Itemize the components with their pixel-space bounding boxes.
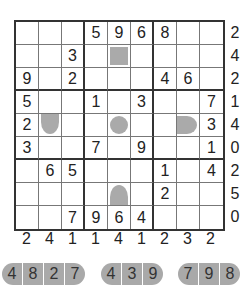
grid-cell[interactable]: 3 bbox=[16, 137, 39, 160]
grid-cell[interactable]: 1 bbox=[85, 91, 108, 114]
grid-cell[interactable] bbox=[108, 160, 131, 183]
grid-cell[interactable] bbox=[62, 22, 85, 45]
grid-cell[interactable] bbox=[39, 137, 62, 160]
cell-value: 3 bbox=[207, 117, 216, 133]
grid-cell[interactable] bbox=[177, 160, 200, 183]
grid-cell[interactable]: 7 bbox=[62, 206, 85, 229]
grid-cell[interactable] bbox=[131, 45, 154, 68]
grid-cell[interactable] bbox=[200, 22, 223, 45]
row-clue: 4 bbox=[227, 113, 243, 136]
grid-cell[interactable]: 4 bbox=[154, 68, 177, 91]
cell-value: 7 bbox=[92, 140, 101, 156]
grid-cell[interactable]: 1 bbox=[200, 137, 223, 160]
piece-tile: 9 bbox=[143, 263, 163, 285]
grid-cell[interactable]: 6 bbox=[177, 68, 200, 91]
grid-cell[interactable] bbox=[39, 206, 62, 229]
grid-cell[interactable] bbox=[131, 114, 154, 137]
grid-cell[interactable] bbox=[177, 137, 200, 160]
grid-cell[interactable] bbox=[16, 183, 39, 206]
grid-cell[interactable] bbox=[108, 114, 131, 137]
grid-cell[interactable] bbox=[177, 183, 200, 206]
grid-cell[interactable]: 1 bbox=[154, 160, 177, 183]
grid-cell[interactable]: 6 bbox=[108, 206, 131, 229]
grid-cell[interactable]: 5 bbox=[62, 160, 85, 183]
grid-cell[interactable] bbox=[62, 114, 85, 137]
grid-cell[interactable] bbox=[177, 114, 200, 137]
grid-cell[interactable] bbox=[39, 183, 62, 206]
grid-cell[interactable] bbox=[39, 68, 62, 91]
grid-cell[interactable] bbox=[16, 160, 39, 183]
grid-cell[interactable] bbox=[62, 91, 85, 114]
piece[interactable]: 439 bbox=[101, 263, 163, 285]
grid-cell[interactable] bbox=[108, 68, 131, 91]
piece-tray: 4827439798 bbox=[0, 263, 248, 287]
grid-cell[interactable] bbox=[154, 137, 177, 160]
grid-cell[interactable]: 5 bbox=[85, 22, 108, 45]
grid-cell[interactable] bbox=[39, 91, 62, 114]
grid-cell[interactable] bbox=[131, 160, 154, 183]
grid-cell[interactable] bbox=[16, 206, 39, 229]
grid-cell[interactable] bbox=[39, 114, 62, 137]
grid-cell[interactable] bbox=[108, 91, 131, 114]
grid-cell[interactable] bbox=[131, 183, 154, 206]
piece-tile: 3 bbox=[122, 263, 142, 285]
cell-value: 6 bbox=[184, 71, 193, 87]
grid-cell[interactable] bbox=[200, 183, 223, 206]
grid-cell[interactable] bbox=[154, 91, 177, 114]
grid-cell[interactable] bbox=[177, 22, 200, 45]
grid-cell[interactable] bbox=[16, 22, 39, 45]
grid-cell[interactable] bbox=[131, 68, 154, 91]
grid-cell[interactable]: 7 bbox=[85, 137, 108, 160]
cell-value: 2 bbox=[161, 186, 170, 202]
grid-cell[interactable]: 6 bbox=[39, 160, 62, 183]
grid-cell[interactable] bbox=[200, 68, 223, 91]
cell-value: 6 bbox=[46, 163, 55, 179]
piece[interactable]: 798 bbox=[178, 263, 240, 285]
grid-cell[interactable]: 4 bbox=[200, 160, 223, 183]
grid-cell[interactable] bbox=[108, 45, 131, 68]
row-clue: 4 bbox=[227, 44, 243, 67]
grid-cell[interactable] bbox=[154, 45, 177, 68]
grid-cell[interactable]: 9 bbox=[108, 22, 131, 45]
grid-cell[interactable] bbox=[154, 114, 177, 137]
grid-cell[interactable] bbox=[85, 68, 108, 91]
grid-cell[interactable]: 9 bbox=[131, 137, 154, 160]
grid-cell[interactable]: 8 bbox=[154, 22, 177, 45]
grid-cell[interactable] bbox=[85, 160, 108, 183]
cell-value: 7 bbox=[68, 210, 77, 226]
grid-cell[interactable]: 3 bbox=[62, 45, 85, 68]
grid-cell[interactable]: 4 bbox=[131, 206, 154, 229]
grid-cell[interactable]: 2 bbox=[16, 114, 39, 137]
cell-value: 9 bbox=[92, 210, 101, 226]
grid-cell[interactable]: 3 bbox=[131, 91, 154, 114]
grid-cell[interactable] bbox=[177, 91, 200, 114]
grid-cell[interactable]: 2 bbox=[154, 183, 177, 206]
piece-tile: 9 bbox=[199, 263, 219, 285]
piece[interactable]: 4827 bbox=[2, 263, 85, 285]
grid-cell[interactable] bbox=[16, 45, 39, 68]
cell-value: 4 bbox=[207, 163, 216, 179]
grid-cell[interactable]: 7 bbox=[200, 91, 223, 114]
grid-cell[interactable] bbox=[200, 45, 223, 68]
grid-cell[interactable] bbox=[85, 183, 108, 206]
grid-cell[interactable]: 5 bbox=[16, 91, 39, 114]
grid-cell[interactable] bbox=[62, 183, 85, 206]
grid-cell[interactable]: 2 bbox=[62, 68, 85, 91]
grid-cell[interactable] bbox=[62, 137, 85, 160]
grid-cell[interactable]: 6 bbox=[131, 22, 154, 45]
grid-cell[interactable] bbox=[177, 206, 200, 229]
grid-cell[interactable] bbox=[39, 45, 62, 68]
grid-cell[interactable] bbox=[85, 45, 108, 68]
grid-cell[interactable]: 9 bbox=[85, 206, 108, 229]
cell-value: 3 bbox=[68, 48, 77, 64]
grid-cell[interactable]: 3 bbox=[200, 114, 223, 137]
row-clue: 5 bbox=[227, 182, 243, 205]
grid-cell[interactable] bbox=[177, 45, 200, 68]
grid-cell[interactable] bbox=[85, 114, 108, 137]
grid-cell[interactable] bbox=[154, 206, 177, 229]
grid-cell[interactable] bbox=[108, 137, 131, 160]
grid-cell[interactable] bbox=[39, 22, 62, 45]
grid-cell[interactable] bbox=[108, 183, 131, 206]
grid-cell[interactable]: 9 bbox=[16, 68, 39, 91]
grid-cell[interactable] bbox=[200, 206, 223, 229]
